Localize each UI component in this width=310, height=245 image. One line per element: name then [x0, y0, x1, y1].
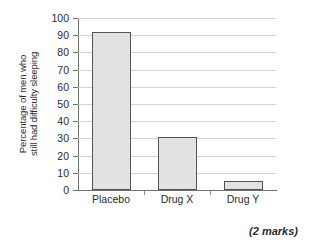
y-axis-tick-label: 10 — [29, 168, 69, 179]
y-axis-tick — [73, 35, 78, 36]
x-axis-tick — [210, 191, 211, 195]
gridline — [78, 190, 276, 191]
y-axis-tick — [73, 52, 78, 53]
y-axis-tick-label: 90 — [29, 30, 69, 41]
y-axis-tick — [73, 190, 78, 191]
y-axis-tick — [73, 138, 78, 139]
y-axis-tick-label: 60 — [29, 82, 69, 93]
y-axis-tick-label: 20 — [29, 150, 69, 161]
bar-drug-y — [224, 181, 263, 190]
y-axis-tick — [73, 156, 78, 157]
y-axis-tick — [73, 104, 78, 105]
y-axis-tick — [73, 18, 78, 19]
y-axis-tick — [73, 87, 78, 88]
bar-drug-x — [158, 137, 197, 190]
marks-note: (2 marks) — [249, 225, 298, 237]
gridline — [78, 18, 276, 19]
y-axis-tick — [73, 173, 78, 174]
plot-area — [78, 18, 276, 190]
y-axis-tick — [73, 70, 78, 71]
x-axis-tick-label: Drug Y — [227, 194, 260, 206]
y-axis-tick-label: 0 — [29, 185, 69, 196]
x-axis-tick-label: Placebo — [92, 194, 130, 206]
y-axis-tick — [73, 121, 78, 122]
bar-chart-figure: Percentage of men who still had difficul… — [0, 0, 310, 245]
y-axis-tick-label: 70 — [29, 64, 69, 75]
y-axis-tick-label: 80 — [29, 47, 69, 58]
x-axis-tick-label: Drug X — [161, 194, 194, 206]
y-axis-tick-label: 50 — [29, 99, 69, 110]
y-axis-tick-label: 40 — [29, 116, 69, 127]
y-axis-tick-label: 30 — [29, 133, 69, 144]
y-axis-tick-label: 100 — [29, 13, 69, 24]
x-axis-tick — [144, 191, 145, 195]
bar-placebo — [92, 32, 131, 190]
